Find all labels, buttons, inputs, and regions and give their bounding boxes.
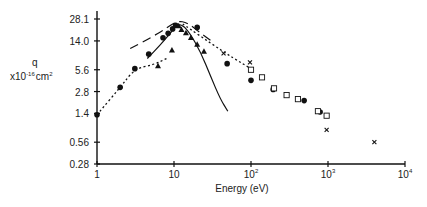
marker-cross — [372, 140, 376, 144]
marker-triangle — [169, 47, 175, 53]
marker-circle — [94, 112, 100, 118]
y-tick-label: 14.0 — [70, 36, 90, 47]
marker-circle — [146, 51, 152, 57]
y-unit-exp: -16 — [26, 71, 35, 77]
marker-cross — [325, 128, 329, 132]
y-tick-label: 0.56 — [70, 137, 90, 148]
marker-circle — [194, 25, 200, 31]
markers — [94, 23, 376, 145]
x-tick-label: 1 — [94, 169, 100, 180]
y-unit-suffix-exp: 2 — [49, 71, 53, 77]
chart: 0.280.561.42.85.614.028.1 110102103104 q… — [0, 0, 427, 207]
y-tick-label: 2.8 — [75, 87, 89, 98]
marker-circle — [301, 98, 307, 104]
y-unit-base: x10 — [10, 71, 27, 82]
axes — [97, 11, 405, 164]
y-tick-label: 0.28 — [70, 159, 90, 170]
x-tick-label: 102 — [244, 168, 259, 180]
y-tick-label: 28.1 — [70, 14, 90, 25]
y-axis-unit: x10-16cm2 — [10, 71, 53, 82]
x-tick-label: 103 — [321, 168, 336, 180]
curves — [97, 22, 251, 115]
marker-square — [259, 75, 264, 80]
marker-circle — [165, 31, 171, 37]
x-tick-label: 10 — [168, 169, 180, 180]
marker-triangle — [155, 63, 161, 69]
marker-circle — [117, 85, 123, 91]
marker-circle — [160, 35, 166, 41]
y-tick-label: 5.6 — [75, 65, 89, 76]
curve-long-dash-theory — [130, 22, 213, 49]
marker-circle — [224, 61, 230, 67]
marker-square — [324, 113, 329, 118]
marker-cross — [248, 60, 252, 64]
marker-square — [295, 97, 300, 102]
marker-square — [248, 67, 253, 72]
x-tick-label: 104 — [398, 168, 413, 180]
marker-circle — [132, 66, 138, 72]
marker-square — [271, 86, 276, 91]
y-tick-label: 1.4 — [75, 108, 89, 119]
y-axis-title: q x10-16cm2 — [10, 57, 53, 82]
marker-cross — [222, 51, 226, 55]
marker-circle — [248, 78, 254, 84]
marker-square — [284, 93, 289, 98]
y-ticks: 0.280.561.42.85.614.028.1 — [70, 14, 100, 170]
marker-triangle — [201, 48, 207, 54]
y-unit-suffix: cm — [36, 71, 49, 82]
marker-square — [315, 109, 320, 114]
x-axis-label: Energy (eV) — [215, 183, 268, 194]
y-axis-label: q — [32, 57, 38, 68]
curve-dotted-fit-high-energy — [183, 24, 251, 69]
